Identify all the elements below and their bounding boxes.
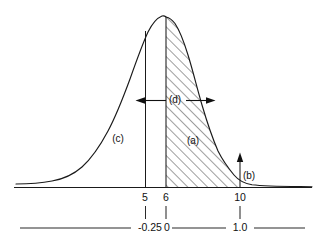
label-b: (b) <box>243 170 255 181</box>
bell-curve-figure: (d) (c) (a) (b) 5 6 10 -0.25 0 1.0 <box>0 0 326 244</box>
bell-curve-svg: (d) (c) (a) (b) 5 6 10 -0.25 0 1.0 <box>0 0 326 244</box>
scale-label-zero: 0 <box>164 221 170 233</box>
scale-connector-ticks <box>146 206 241 219</box>
label-a: (a) <box>187 135 199 146</box>
axis-tick-label-10: 10 <box>234 191 246 203</box>
normal-curve-path <box>16 16 312 187</box>
axis-tick-label-6: 6 <box>163 191 169 203</box>
axis-tick-label-5: 5 <box>142 191 148 203</box>
scale-label-minus-025: -0.25 <box>138 221 162 233</box>
label-c: (c) <box>112 133 124 144</box>
scale-label-one: 1.0 <box>233 221 248 233</box>
label-d: (d) <box>169 94 181 105</box>
